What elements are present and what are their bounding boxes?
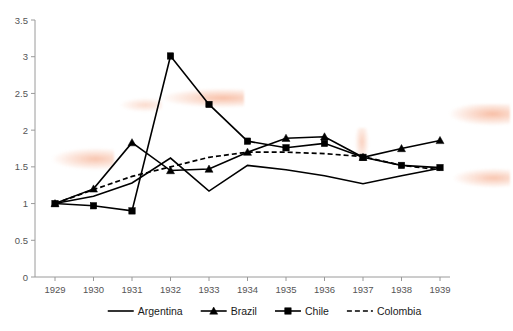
data-point-marker: [285, 308, 291, 314]
legend-item-colombia[interactable]: Colombia: [347, 305, 422, 317]
data-point-marker: [283, 145, 289, 151]
x-tick-label: 1936: [314, 284, 335, 295]
data-point-marker: [129, 208, 135, 214]
y-tick-label: 2.5: [15, 88, 28, 99]
chart-figure: 00.511.522.533.5192919301931193219331934…: [0, 0, 513, 331]
data-point-marker: [437, 164, 443, 170]
series-line: [55, 152, 440, 203]
y-tick-label: 0.5: [15, 235, 28, 246]
x-tick-label: 1937: [352, 284, 373, 295]
y-tick-label: 3.5: [15, 15, 28, 26]
y-tick-label: 1: [23, 198, 28, 209]
x-tick-label: 1929: [44, 284, 65, 295]
y-tick-label: 3: [23, 51, 28, 62]
x-tick-label: 1939: [429, 284, 450, 295]
x-tick-label: 1932: [160, 284, 181, 295]
data-point-marker: [167, 53, 173, 59]
data-point-marker: [436, 136, 444, 143]
data-point-marker: [244, 138, 250, 144]
legend-item-chile[interactable]: Chile: [275, 305, 329, 317]
x-tick-label: 1934: [237, 284, 258, 295]
data-point-marker: [128, 139, 136, 146]
y-tick-label: 1.5: [15, 161, 28, 172]
plot-area: 00.511.522.533.5192919301931193219331934…: [0, 0, 513, 331]
legend-label: Colombia: [377, 305, 422, 317]
data-point-marker: [90, 203, 96, 209]
data-point-marker: [206, 101, 212, 107]
legend-label: Argentina: [138, 305, 183, 317]
legend-item-argentina[interactable]: Argentina: [108, 305, 183, 317]
x-tick-label: 1931: [121, 284, 142, 295]
series-colombia: [55, 152, 440, 203]
data-point-marker: [321, 140, 327, 146]
legend-item-brazil[interactable]: Brazil: [201, 305, 257, 317]
legend-group: ArgentinaBrazilChileColombia: [108, 305, 422, 317]
x-tick-label: 1930: [83, 284, 104, 295]
x-tick-label: 1938: [391, 284, 412, 295]
legend-label: Brazil: [231, 305, 257, 317]
y-tick-label: 0: [23, 272, 28, 283]
series-line: [55, 56, 440, 211]
legend-label: Chile: [305, 305, 329, 317]
x-tick-label: 1933: [198, 284, 219, 295]
x-tick-label: 1935: [275, 284, 296, 295]
series-line: [55, 137, 440, 204]
y-tick-label: 2: [23, 125, 28, 136]
series-group: [51, 53, 444, 214]
